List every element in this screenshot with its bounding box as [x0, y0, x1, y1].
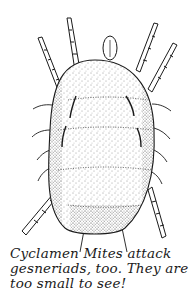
mouthparts — [103, 36, 117, 60]
mite-body — [40, 55, 162, 245]
caption-line-1: Cyclamen Mites attack — [10, 246, 188, 261]
caption-line-3: too small to see! — [10, 276, 188, 291]
caption-line-2: gesneriads, too. They are — [10, 261, 188, 276]
caption: Cyclamen Mites attack gesneriads, too. T… — [10, 246, 188, 291]
